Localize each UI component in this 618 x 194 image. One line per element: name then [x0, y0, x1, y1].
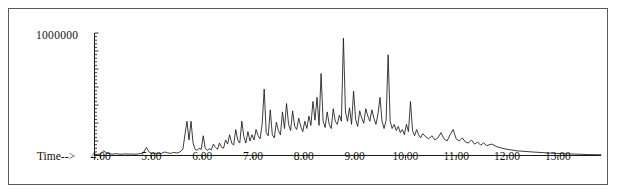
chromatogram-plot — [0, 0, 618, 194]
y-axis-minor-ticks — [95, 33, 99, 156]
x-tick-label: 10.00 — [392, 150, 418, 162]
x-tick-label: 7.00 — [243, 150, 263, 162]
y-axis-label: 1000000 — [36, 29, 78, 41]
figure-container: 1000000 Time--> 4.005.006.007.008.009.00… — [0, 0, 618, 194]
x-tick-label: 9.00 — [345, 150, 365, 162]
x-tick-label: 5.00 — [141, 150, 161, 162]
x-tick-label: 13.00 — [545, 150, 571, 162]
y-axis — [95, 33, 99, 156]
x-tick-label: 8.00 — [294, 150, 314, 162]
chromatogram-trace — [95, 38, 602, 155]
x-tick-label: 6.00 — [192, 150, 212, 162]
x-tick-label: 4.00 — [91, 150, 111, 162]
x-tick-label: 11.00 — [443, 150, 468, 162]
x-axis-label: Time--> — [37, 150, 75, 162]
x-tick-label: 12.00 — [494, 150, 520, 162]
